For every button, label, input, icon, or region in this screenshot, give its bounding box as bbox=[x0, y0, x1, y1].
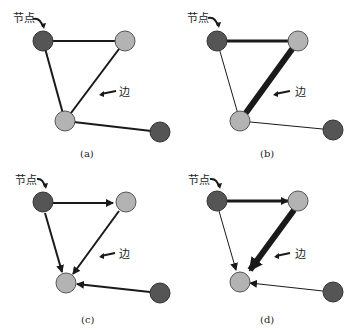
edge-label: 边 bbox=[295, 83, 306, 99]
panel-a: 节点 边 (a) bbox=[0, 0, 178, 166]
panel-d: 节点 边 (d) bbox=[178, 166, 356, 332]
panel-b: 节点 边 (b) bbox=[178, 0, 356, 166]
edge-label: 边 bbox=[119, 83, 130, 99]
graph-directed-weighted bbox=[178, 166, 356, 333]
panel-caption: (d) bbox=[260, 314, 274, 325]
panel-caption: (b) bbox=[260, 148, 274, 159]
edge-label: 边 bbox=[119, 245, 130, 261]
node-label: 节点 bbox=[187, 9, 209, 25]
node-label: 节点 bbox=[15, 171, 37, 187]
node-label: 节点 bbox=[188, 171, 210, 187]
graph-directed-unweighted bbox=[0, 166, 178, 333]
panel-caption: (a) bbox=[80, 148, 94, 159]
node-label: 节点 bbox=[13, 9, 35, 25]
edge-label: 边 bbox=[295, 245, 306, 261]
panel-caption: (c) bbox=[81, 314, 94, 325]
panel-c: 节点 边 (c) bbox=[0, 166, 178, 332]
